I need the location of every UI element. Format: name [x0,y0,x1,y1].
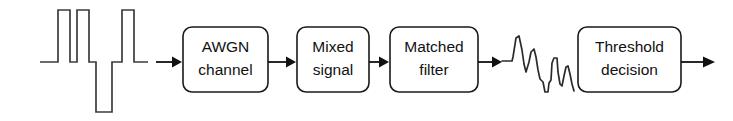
block-mixed-signal-box [297,27,369,92]
digital-pulse-waveform [40,10,148,112]
block-matched-filter[interactable]: Matched filter [390,27,478,92]
block-awgn-channel-label-line1: AWGN [202,38,250,55]
block-diagram-canvas: AWGN channel Mixed signal Matched filter [0,0,733,121]
block-awgn-channel-label-line2: channel [198,61,252,78]
block-threshold-decision-label-line2: decision [601,61,658,78]
block-mixed-signal-label-line1: Mixed [312,38,353,55]
block-matched-filter-label-line1: Matched [404,38,463,55]
arrow-threshold-output [681,57,715,68]
block-matched-filter-box [390,27,478,92]
block-threshold-decision-box [578,27,681,92]
block-awgn-channel[interactable]: AWGN channel [183,27,268,92]
arrow-matched-to-analog [478,57,502,68]
block-awgn-channel-box [183,27,268,92]
block-threshold-decision[interactable]: Threshold decision [578,27,681,92]
block-mixed-signal[interactable]: Mixed signal [297,27,369,92]
block-matched-filter-label-line2: filter [419,61,448,78]
block-mixed-signal-label-line2: signal [313,61,354,78]
noisy-analog-waveform [502,36,574,92]
arrow-awgn-to-mixed [268,57,296,68]
diagram-svg: AWGN channel Mixed signal Matched filter [0,0,733,121]
block-threshold-decision-label-line1: Threshold [595,38,664,55]
arrow-mixed-to-matched [369,57,389,68]
arrow-input-to-awgn [156,57,182,68]
